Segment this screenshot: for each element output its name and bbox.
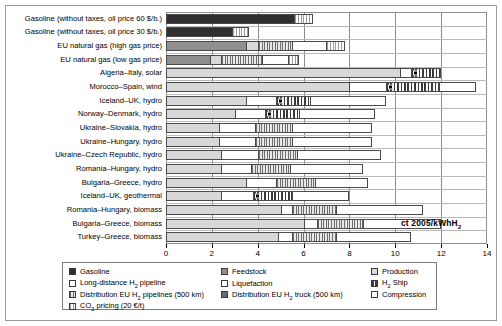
legend-swatch-co2 — [69, 303, 76, 310]
x-tick-label: 6 — [301, 249, 305, 258]
category-label: Ukraine–Slovakia, hydro — [80, 123, 162, 133]
bar-segment-distpipe — [258, 150, 297, 160]
gridline — [441, 12, 442, 244]
bar-row — [166, 96, 386, 106]
x-tick — [212, 244, 213, 248]
category-label: Gasoline (without taxes, oil price 60 $/… — [25, 14, 162, 24]
legend-swatch-gasoline — [69, 268, 76, 275]
category-label: Romania–Hungary, biomass — [67, 205, 162, 215]
bar-segment-production — [166, 82, 349, 92]
category-label: Romania–Hungary, hydro — [76, 164, 162, 174]
bar-segment-ship — [253, 191, 292, 201]
bar-segment-gasoline — [166, 27, 232, 37]
category-label: Algeria–Italy, solar — [100, 68, 162, 78]
bar-segment-compression — [336, 232, 412, 242]
category-label: Bulgaria–Greece, hydro — [82, 178, 162, 188]
bar-segment-distpipe — [255, 123, 292, 133]
bar-segment-distpipe — [221, 55, 262, 65]
bar-segment-feedstock — [166, 55, 210, 65]
bar-segment-liquefaction — [400, 68, 411, 78]
bar-row — [166, 137, 372, 147]
bar-row — [166, 27, 249, 37]
bar-segment-co2 — [326, 41, 344, 51]
chart-figure: Gasoline (without taxes, oil price 60 $/… — [0, 0, 502, 326]
bar-segment-ship — [265, 109, 299, 119]
axis-unit-label: ct 2005/kWhH2 — [401, 218, 462, 230]
legend-swatch-production — [371, 268, 378, 275]
x-tick-label: 4 — [255, 249, 259, 258]
bar-segment-liquefaction — [219, 137, 256, 147]
bar-row — [166, 219, 441, 229]
x-axis: 02468101214 — [166, 244, 487, 262]
legend-swatch-compression — [371, 291, 378, 298]
bar-row — [166, 41, 345, 51]
bar-segment-production — [166, 96, 246, 106]
bar-row — [166, 55, 299, 65]
bar-segment-production — [166, 164, 221, 174]
category-label: Iceland–UK, geothermal — [81, 191, 162, 201]
bar-segment-compression — [292, 123, 372, 133]
legend-label: CO2 pricing (20 €/t) — [80, 301, 144, 312]
x-tick — [487, 244, 488, 248]
x-tick — [166, 244, 167, 248]
category-label: EU natural gas (high gas price) — [57, 41, 162, 51]
x-tick — [304, 244, 305, 248]
bar-segment-production — [166, 137, 219, 147]
category-label: Ukraine–Hungary, hydro — [80, 137, 162, 147]
bar-segment-distpipe — [251, 164, 290, 174]
category-label: Ukraine–Czech Republic, hydro — [55, 150, 162, 160]
legend-swatch-liquefaction — [221, 280, 228, 287]
bar-row — [166, 164, 363, 174]
legend-label: Distribution EU H2 pipelines (500 km) — [80, 290, 204, 301]
legend-item-ship: H2 Ship — [371, 278, 426, 290]
chart-legend: GasolineLong-distance H2 pipelineDistrib… — [62, 262, 437, 310]
bar-segment-compression — [299, 109, 375, 119]
legend-item-gasoline: Gasoline — [69, 266, 204, 278]
bar-segment-co2 — [232, 27, 248, 37]
bar-row — [166, 82, 476, 92]
plot-area — [166, 12, 487, 244]
category-label: Turkey–Greece, biomass — [77, 232, 162, 242]
category-label: Bulgaria–Greece, biomass — [73, 219, 162, 229]
bar-segment-feedstock — [166, 41, 246, 51]
bar-row — [166, 232, 411, 242]
x-tick-label: 0 — [164, 249, 168, 258]
bar-segment-compression — [315, 178, 368, 188]
category-label: Iceland–UK, hydro — [100, 96, 162, 106]
legend-item-feedstock: Feedstock — [221, 266, 343, 278]
bar-row — [166, 191, 349, 201]
bar-segment-distpipe — [317, 219, 363, 229]
bar-segment-compression — [292, 41, 326, 51]
legend-label: Compression — [382, 290, 426, 299]
bar-segment-liquefaction — [235, 109, 265, 119]
bar-segment-liquefaction — [221, 191, 253, 201]
legend-item-co2: CO2 pricing (20 €/t) — [69, 301, 204, 313]
category-label: Morocco–Spain, wind — [89, 82, 162, 92]
legend-swatch-disttruck — [221, 291, 228, 298]
bar-row — [166, 14, 313, 24]
legend-column-3: ProductionH2 ShipCompression — [371, 266, 426, 301]
legend-column-2: FeedstockLiquefactionDistribution EU H2 … — [221, 266, 343, 301]
legend-label: Distribution EU H2 truck (500 km) — [232, 290, 343, 301]
legend-label: H2 Ship — [382, 278, 408, 289]
category-label: Norway–Denmark, hydro — [78, 109, 162, 119]
bar-segment-production — [166, 205, 281, 215]
bar-segment-compression — [439, 82, 476, 92]
x-tick — [395, 244, 396, 248]
bar-segment-ship — [386, 82, 439, 92]
legend-swatch-ship — [371, 280, 378, 287]
legend-swatch-feedstock — [221, 268, 228, 275]
legend-label: Production — [382, 267, 418, 276]
bar-segment-liquefaction — [304, 219, 318, 229]
bar-segment-distpipe — [255, 137, 292, 147]
bar-segment-liquefaction — [349, 82, 386, 92]
bar-segment-liquefaction — [278, 232, 292, 242]
legend-item-distpipe: Distribution EU H2 pipelines (500 km) — [69, 289, 204, 301]
bar-segment-production — [166, 150, 221, 160]
bar-segment-production — [166, 178, 246, 188]
category-label: EU natural gas (low gas price) — [60, 55, 162, 65]
bar-segment-compression — [292, 191, 349, 201]
bar-row — [166, 205, 423, 215]
bar-segment-compression — [290, 164, 363, 174]
x-tick — [441, 244, 442, 248]
